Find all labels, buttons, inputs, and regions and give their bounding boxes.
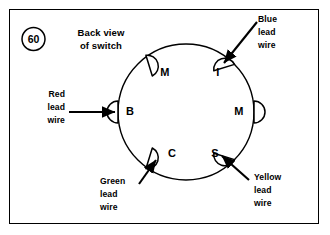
terminal-label-b: B (123, 105, 137, 118)
blue-lead-arrow (224, 22, 257, 63)
figure-canvas: 60 Back view of switch M I M S C B Red l… (0, 0, 330, 235)
terminal-label-s: S (208, 147, 222, 160)
blue-lead-wire-label-line-3: wire (258, 40, 314, 50)
green-lead-wire-label-line-3: wire (100, 202, 156, 212)
terminal-label-m-upper-left: M (157, 66, 173, 79)
red-lead-wire-label-line-3: wire (0, 115, 65, 125)
green-lead-wire-label-line-1: Green (100, 176, 156, 186)
green-lead-wire-label-line-2: lead (100, 189, 156, 199)
diagram-title-line-2: of switch (60, 40, 142, 52)
terminal-label-i: I (211, 66, 225, 79)
terminal-label-m-right: M (231, 105, 247, 118)
red-lead-wire-label-line-1: Red (0, 89, 65, 99)
terminal-notch-m-right (254, 101, 265, 123)
yellow-lead-wire-label-line-1: Yellow (254, 172, 316, 182)
yellow-lead-wire-label-line-3: wire (254, 198, 316, 208)
yellow-lead-wire-label-line-2: lead (254, 185, 316, 195)
blue-lead-wire-label-line-2: lead (258, 27, 314, 37)
blue-lead-wire-label-line-1: Blue (258, 14, 314, 24)
diagram-title-line-1: Back view (60, 27, 142, 39)
red-lead-wire-label-line-2: lead (0, 102, 65, 112)
terminal-label-c: C (165, 147, 179, 160)
figure-number: 60 (22, 33, 46, 45)
